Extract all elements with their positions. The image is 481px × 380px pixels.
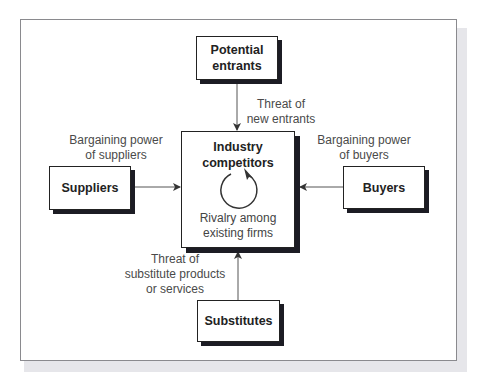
label-line: Threat of (246, 97, 316, 112)
label-threat-substitutes: Threat of substitute products or service… (124, 252, 226, 297)
label-threat-new-entrants: Threat of new entrants (246, 97, 316, 127)
node-potential-entrants: Potential entrants (196, 36, 278, 80)
cycle-arrow-icon (214, 166, 264, 212)
node-suppliers: Suppliers (49, 166, 131, 210)
label-line: of buyers (316, 148, 412, 163)
label-line: new entrants (246, 112, 316, 127)
node-label: Substitutes (204, 313, 272, 329)
label-line: substitute products (124, 267, 226, 282)
node-substitutes: Substitutes (197, 300, 280, 342)
node-label: Potential (211, 42, 264, 58)
node-label: entrants (212, 58, 261, 74)
label-line: or services (124, 282, 226, 297)
industry-title-line1: Industry (182, 139, 294, 155)
label-bargaining-suppliers: Bargaining power of suppliers (68, 133, 164, 163)
node-label: Buyers (363, 180, 405, 196)
node-label: Suppliers (62, 180, 119, 196)
industry-subtitle: Rivalry among existing firms (182, 211, 294, 241)
label-line: Threat of (124, 252, 226, 267)
label-line: Bargaining power (316, 133, 412, 148)
label-bargaining-buyers: Bargaining power of buyers (316, 133, 412, 163)
node-industry-competitors: Industry competitors Rivalry among exist… (181, 131, 295, 248)
label-line: of suppliers (68, 148, 164, 163)
industry-sub-line2: existing firms (182, 226, 294, 241)
label-line: Bargaining power (68, 133, 164, 148)
industry-sub-line1: Rivalry among (182, 211, 294, 226)
node-buyers: Buyers (343, 166, 425, 209)
